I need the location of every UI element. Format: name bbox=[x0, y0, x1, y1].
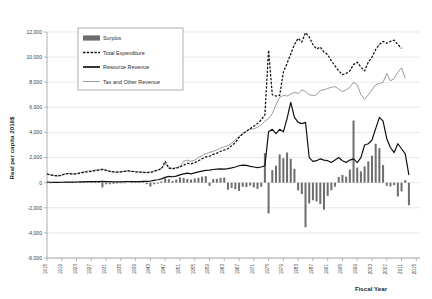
surplus-bar bbox=[360, 171, 362, 182]
surplus-bar bbox=[408, 183, 410, 206]
x-tick-label: 1919 bbox=[58, 264, 63, 275]
surplus-bar bbox=[208, 183, 210, 186]
surplus-bar bbox=[301, 183, 303, 194]
x-axis-title: Fiscal Year bbox=[355, 285, 388, 292]
surplus-bar bbox=[364, 166, 366, 182]
x-tick-label: 1999 bbox=[353, 264, 358, 275]
surplus-bar bbox=[356, 168, 358, 183]
surplus-bar bbox=[124, 183, 126, 184]
x-tick-label: 1939 bbox=[132, 264, 137, 275]
surplus-bar bbox=[323, 183, 325, 210]
surplus-bar bbox=[378, 148, 380, 183]
surplus-bar bbox=[404, 180, 406, 183]
x-tick-label: 1931 bbox=[102, 264, 107, 275]
y-tick-label: -4,000 bbox=[28, 230, 43, 236]
surplus-bar bbox=[157, 183, 159, 184]
y-tick-label: -6,000 bbox=[28, 255, 43, 261]
surplus-bar bbox=[160, 181, 162, 182]
surplus-bar bbox=[341, 175, 343, 183]
surplus-bar bbox=[330, 183, 332, 191]
x-tick-label: 1947 bbox=[161, 264, 166, 275]
surplus-bar bbox=[183, 178, 185, 183]
surplus-bar bbox=[212, 179, 214, 183]
surplus-bar bbox=[386, 183, 388, 186]
x-tick-label: 1967 bbox=[235, 264, 240, 275]
x-tick-label: 1971 bbox=[250, 264, 255, 275]
y-tick-label: 8,000 bbox=[29, 79, 42, 85]
surplus-bar bbox=[293, 169, 295, 183]
x-tick-label: 1935 bbox=[117, 264, 122, 275]
x-tick-label: 1923 bbox=[73, 264, 78, 275]
fiscal-chart-figure: 12,00010,0008,0006,0004,0002,0000-2,000-… bbox=[0, 0, 432, 299]
surplus-bar bbox=[164, 178, 166, 182]
surplus-bar bbox=[197, 178, 199, 183]
surplus-bar bbox=[223, 178, 225, 183]
surplus-bar bbox=[282, 158, 284, 182]
y-tick-label: 10,000 bbox=[26, 54, 42, 60]
surplus-bar bbox=[338, 177, 340, 183]
surplus-bar bbox=[256, 183, 258, 189]
surplus-bar bbox=[308, 183, 310, 204]
surplus-bar bbox=[172, 181, 174, 183]
surplus-bar bbox=[286, 153, 288, 183]
chart-canvas: 12,00010,0008,0006,0004,0002,0000-2,000-… bbox=[0, 0, 432, 299]
surplus-bar bbox=[101, 183, 103, 188]
y-tick-label: 12,000 bbox=[26, 29, 42, 35]
surplus-bar bbox=[245, 183, 247, 187]
surplus-bar bbox=[305, 183, 307, 228]
surplus-bar bbox=[234, 183, 236, 190]
x-tick-label: 1975 bbox=[265, 264, 270, 275]
surplus-bar bbox=[238, 183, 240, 191]
y-tick-label: 0 bbox=[39, 180, 42, 186]
x-tick-label: 1991 bbox=[324, 264, 329, 275]
x-tick-label: 2015 bbox=[412, 264, 417, 275]
surplus-bar bbox=[179, 177, 181, 182]
surplus-bar bbox=[327, 183, 329, 196]
surplus-bar bbox=[297, 183, 299, 191]
x-tick-label: 1987 bbox=[309, 264, 314, 275]
surplus-bar bbox=[319, 183, 321, 204]
surplus-bar bbox=[109, 183, 111, 185]
surplus-bar bbox=[190, 180, 192, 183]
surplus-bar bbox=[382, 165, 384, 183]
surplus-bar bbox=[260, 183, 262, 187]
surplus-bar bbox=[367, 161, 369, 182]
surplus-bar bbox=[186, 179, 188, 183]
surplus-bar bbox=[149, 183, 151, 187]
surplus-bar bbox=[279, 154, 281, 182]
surplus-bar bbox=[216, 179, 218, 183]
surplus-bar bbox=[375, 144, 377, 183]
surplus-bar bbox=[242, 183, 244, 187]
x-tick-label: 1983 bbox=[294, 264, 299, 275]
chart-background bbox=[0, 0, 432, 299]
surplus-bar bbox=[120, 183, 122, 184]
surplus-bar bbox=[316, 183, 318, 202]
x-tick-label: 1955 bbox=[191, 264, 196, 275]
surplus-bar bbox=[231, 183, 233, 188]
x-tick-label: 2007 bbox=[383, 264, 388, 275]
surplus-bar bbox=[371, 156, 373, 183]
legend-swatch-surplus bbox=[83, 35, 100, 40]
surplus-bar bbox=[397, 183, 399, 197]
surplus-bar bbox=[105, 183, 107, 185]
surplus-bar bbox=[131, 182, 133, 183]
legend-label: Resource Revenue bbox=[103, 64, 149, 70]
surplus-bar bbox=[334, 183, 336, 187]
surplus-bar bbox=[205, 176, 207, 183]
surplus-bar bbox=[268, 183, 270, 214]
x-tick-label: 2011 bbox=[398, 264, 403, 274]
surplus-bar bbox=[168, 179, 170, 183]
surplus-bar bbox=[393, 183, 395, 186]
surplus-bar bbox=[401, 183, 403, 192]
y-tick-label: 6,000 bbox=[29, 104, 42, 110]
surplus-bar bbox=[194, 179, 196, 183]
surplus-bar bbox=[353, 121, 355, 183]
x-tick-label: 1915 bbox=[43, 264, 48, 275]
surplus-bar bbox=[349, 169, 351, 182]
x-tick-label: 1927 bbox=[87, 264, 92, 275]
surplus-bar bbox=[249, 183, 251, 186]
surplus-bar bbox=[290, 159, 292, 183]
surplus-bar bbox=[153, 183, 155, 185]
x-tick-label: 1995 bbox=[338, 264, 343, 275]
chart-legend: SurplusTotal ExpenditureResource Revenue… bbox=[78, 28, 183, 90]
